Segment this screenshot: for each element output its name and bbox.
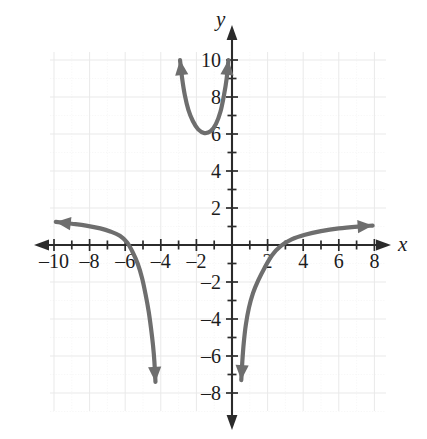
arrowhead-right-branch-end [357, 220, 372, 233]
y-axis [227, 25, 238, 430]
y-axis-arrow-up [227, 25, 238, 40]
coordinate-plane-svg: –10–8–6–4–22468 108642–2–4–6–8 x y [0, 0, 427, 439]
x-axis-label: x [397, 232, 408, 256]
x-tick-label: 4 [298, 250, 308, 272]
y-tick-label: 8 [211, 86, 221, 108]
y-tick-label: 10 [201, 49, 221, 71]
x-tick-labels-group: –10–8–6–4–22468 [38, 250, 379, 272]
y-axis-arrow-down [227, 415, 238, 430]
x-tick-label: –10 [38, 250, 69, 272]
x-axis-arrow-right [376, 240, 391, 251]
graph-figure: –10–8–6–4–22468 108642–2–4–6–8 x y [0, 0, 427, 439]
y-tick-label: –4 [200, 308, 221, 330]
x-tick-label: 8 [369, 250, 379, 272]
x-tick-label: –8 [79, 250, 100, 272]
y-tick-label: –6 [200, 345, 221, 367]
x-tick-label: –4 [150, 250, 171, 272]
arrowhead-right-branch-start [236, 365, 249, 380]
y-tick-label: 2 [211, 197, 221, 219]
y-tick-label: –8 [200, 382, 221, 404]
x-axis-arrow-left [34, 240, 49, 251]
curve-right-branch [241, 226, 372, 380]
y-tick-label: 4 [211, 160, 221, 182]
x-axis [34, 240, 391, 251]
x-tick-label: –2 [185, 250, 206, 272]
y-tick-label: –2 [200, 271, 221, 293]
x-tick-label: 6 [334, 250, 344, 272]
y-axis-label: y [214, 7, 226, 31]
